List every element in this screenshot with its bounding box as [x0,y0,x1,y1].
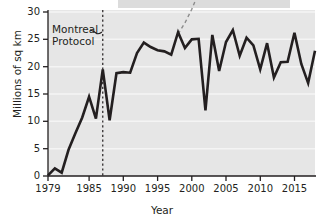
y-axis-title: Millions of sq km [11,14,23,134]
x-tick-label-1979: 1979 [28,183,68,194]
x-tick-label-2015: 2015 [275,183,315,194]
y-tick-label-5: 5 [18,143,40,154]
montreal-protocol-label-line2: Protocol [52,35,94,47]
x-axis-title: Year [0,204,324,216]
ozone-hole-area-chart: 0 5 10 15 20 25 30 1979 1985 1990 1995 2… [0,0,324,222]
montreal-protocol-label-line1: Montreal [52,23,98,35]
y-tick-marks [43,12,48,176]
x-tick-marks [48,176,295,181]
y-tick-label-0: 0 [18,170,40,181]
